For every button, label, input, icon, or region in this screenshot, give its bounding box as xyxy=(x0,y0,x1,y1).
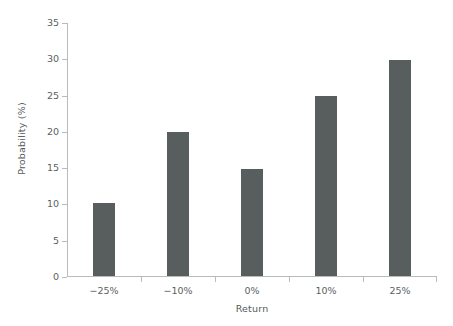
y-tick-mark xyxy=(62,23,67,24)
y-tick: 30 xyxy=(67,59,68,60)
y-tick: 5 xyxy=(67,241,68,242)
y-tick-label: 0 xyxy=(53,270,59,283)
y-axis-title: Probability (%) xyxy=(12,0,30,277)
x-tick-mark xyxy=(363,277,364,282)
bar xyxy=(93,203,115,276)
x-axis-line xyxy=(67,276,437,277)
plot-area: 05101520253035 xyxy=(67,23,437,277)
y-tick-label: 30 xyxy=(47,52,59,65)
y-tick-mark xyxy=(62,59,67,60)
x-tick-label: 10% xyxy=(289,284,363,297)
y-tick: 0 xyxy=(67,277,68,278)
y-tick-label: 5 xyxy=(53,234,59,247)
x-axis-title: Return xyxy=(67,303,437,314)
y-tick-label: 35 xyxy=(47,16,59,29)
bar xyxy=(315,96,337,276)
bar xyxy=(167,132,189,276)
y-axis-line xyxy=(67,23,68,277)
x-tick-label: −25% xyxy=(67,284,141,297)
y-tick-mark xyxy=(62,96,67,97)
x-tick-mark xyxy=(215,277,216,282)
y-tick-mark xyxy=(62,204,67,205)
x-axis-title-label: Return xyxy=(236,303,269,314)
x-tick-mark xyxy=(141,277,142,282)
y-tick-mark xyxy=(62,241,67,242)
bar xyxy=(389,60,411,276)
x-tick-label: −10% xyxy=(141,284,215,297)
y-tick-mark xyxy=(62,168,67,169)
y-tick-label: 20 xyxy=(47,125,59,138)
bar-chart: Probability (%) 05101520253035 Return −2… xyxy=(0,0,453,326)
y-tick: 15 xyxy=(67,168,68,169)
y-axis-title-label: Probability (%) xyxy=(16,102,27,175)
y-tick-mark xyxy=(62,132,67,133)
y-tick-mark xyxy=(62,277,67,278)
x-tick-mark xyxy=(289,277,290,282)
y-tick: 35 xyxy=(67,23,68,24)
y-tick: 10 xyxy=(67,204,68,205)
x-tick-label: 25% xyxy=(363,284,437,297)
y-tick: 25 xyxy=(67,96,68,97)
bar xyxy=(241,169,263,276)
y-tick-label: 10 xyxy=(47,197,59,210)
x-tick-label: 0% xyxy=(215,284,289,297)
y-tick-label: 25 xyxy=(47,89,59,102)
y-tick-label: 15 xyxy=(47,161,59,174)
y-tick: 20 xyxy=(67,132,68,133)
x-tick-mark xyxy=(436,277,437,282)
